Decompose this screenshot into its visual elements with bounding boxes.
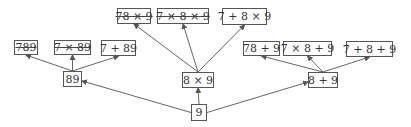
node-7-plus-8-times-9: 7 + 8 × 9 [222, 8, 267, 25]
tree-edge [26, 55, 73, 71]
tree-edge [262, 56, 324, 72]
tree-edge [198, 88, 199, 104]
expression-tree-diagram: 9 89 8 × 9 8 + 9 789 7 × 89 7 + 89 78 × … [0, 0, 411, 127]
node-label: 789 [16, 42, 37, 53]
node-label: 8 × 9 [183, 75, 213, 86]
node-label: 7 + 8 × 9 [218, 11, 271, 22]
node-78-plus-9: 78 + 9 [243, 41, 280, 56]
node-89: 89 [63, 71, 82, 87]
node-9-root: 9 [191, 104, 207, 121]
tree-edge [73, 56, 119, 71]
node-7-times-8-times-9-struck: 7 × 8 × 9 [157, 8, 209, 24]
tree-edge [82, 81, 191, 113]
node-7-times-8-plus-9: 7 × 8 + 9 [283, 41, 332, 56]
node-7-times-89-struck: 7 × 89 [54, 40, 91, 55]
node-78-times-9-struck: 78 × 9 [117, 8, 151, 24]
node-label: 78 × 9 [115, 11, 152, 22]
tree-edge [198, 25, 245, 72]
node-789-struck: 789 [14, 40, 38, 55]
node-8-plus-9: 8 + 9 [308, 72, 338, 88]
node-label: 7 × 89 [54, 42, 91, 53]
node-label: 78 + 9 [243, 43, 280, 54]
tree-edge [207, 82, 308, 113]
node-label: 9 [196, 107, 203, 118]
node-label: 89 [66, 74, 80, 85]
node-label: 7 × 8 + 9 [281, 43, 334, 54]
node-8-times-9: 8 × 9 [182, 72, 214, 88]
node-label: 8 + 9 [308, 75, 338, 86]
node-7-plus-8-plus-9: 7 + 8 + 9 [346, 41, 393, 57]
node-label: 7 + 8 + 9 [343, 44, 396, 55]
node-7-plus-89: 7 + 89 [101, 40, 136, 56]
tree-edge [323, 57, 370, 72]
node-label: 7 + 89 [100, 43, 137, 54]
tree-edge [134, 24, 198, 72]
node-label: 7 × 8 × 9 [156, 11, 209, 22]
tree-edge [183, 24, 198, 72]
